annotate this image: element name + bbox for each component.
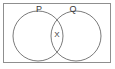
set-label-q: Q <box>69 4 76 14</box>
venn-diagram-figure: P Q X <box>0 0 115 69</box>
set-label-p: P <box>36 4 42 14</box>
venn-diagram-canvas: P Q X <box>0 0 115 69</box>
intersection-label-x: X <box>54 30 60 39</box>
